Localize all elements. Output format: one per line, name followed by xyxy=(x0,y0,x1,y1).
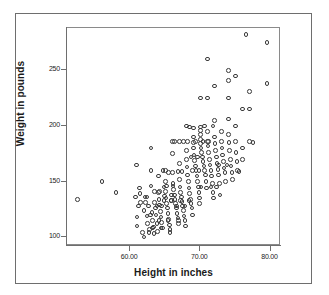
data-point xyxy=(195,174,200,179)
data-point xyxy=(205,129,210,134)
data-point xyxy=(209,185,214,190)
data-point xyxy=(190,213,195,218)
data-point xyxy=(203,173,208,178)
data-point xyxy=(148,213,153,218)
data-point xyxy=(149,146,154,151)
data-point xyxy=(223,179,228,184)
data-point xyxy=(149,168,154,173)
data-point xyxy=(208,163,213,168)
data-point xyxy=(212,135,217,140)
data-point xyxy=(135,224,140,229)
data-point xyxy=(178,198,183,203)
data-point xyxy=(152,189,157,194)
data-point xyxy=(204,179,209,184)
x-axis-tick-mark xyxy=(270,246,271,251)
data-point xyxy=(150,226,155,231)
y-axis-tick-mark xyxy=(61,181,66,182)
data-point xyxy=(163,189,168,194)
data-point xyxy=(209,174,214,179)
data-point xyxy=(155,204,160,209)
data-point xyxy=(247,107,252,112)
data-point xyxy=(211,190,216,195)
data-point xyxy=(244,32,249,37)
data-point xyxy=(197,201,202,206)
data-point xyxy=(227,140,232,145)
data-point xyxy=(216,167,221,172)
data-point xyxy=(147,230,152,235)
data-point xyxy=(100,179,105,184)
data-point xyxy=(157,197,162,202)
data-point xyxy=(212,118,217,123)
data-point xyxy=(158,209,163,214)
data-point xyxy=(178,185,183,190)
data-point xyxy=(170,151,175,156)
data-point xyxy=(216,173,221,178)
y-axis-tick-label: 200 xyxy=(34,121,60,129)
data-point xyxy=(177,161,182,166)
data-point xyxy=(183,224,188,229)
x-axis-line xyxy=(66,245,281,246)
data-point xyxy=(166,218,171,223)
data-point xyxy=(230,177,235,182)
data-point xyxy=(197,190,202,195)
data-point xyxy=(134,163,139,168)
data-point xyxy=(159,204,164,209)
data-point xyxy=(226,78,231,83)
y-axis-tick-label: 250 xyxy=(34,65,60,73)
data-point xyxy=(164,184,169,189)
x-axis-tick-label: 70.00 xyxy=(177,253,221,261)
data-point xyxy=(229,164,234,169)
data-point xyxy=(235,159,240,164)
data-point xyxy=(137,186,142,191)
data-point xyxy=(247,89,252,94)
data-point xyxy=(240,146,245,151)
data-point xyxy=(181,139,186,144)
data-point xyxy=(184,148,189,153)
data-point xyxy=(205,57,210,62)
data-point xyxy=(174,204,179,209)
plot-panel xyxy=(66,27,280,245)
data-point xyxy=(191,146,196,151)
data-point xyxy=(155,229,160,234)
data-point xyxy=(206,144,211,149)
data-point xyxy=(142,235,147,240)
data-point xyxy=(183,218,188,223)
data-point xyxy=(186,179,191,184)
data-point xyxy=(190,168,195,173)
data-point xyxy=(230,170,235,175)
data-point xyxy=(114,190,119,195)
data-point xyxy=(138,191,143,196)
x-axis-tick-label: 60.00 xyxy=(107,253,151,261)
data-point xyxy=(185,139,190,144)
y-axis-tick-mark xyxy=(61,69,66,70)
data-point xyxy=(157,218,162,223)
data-point xyxy=(162,198,167,203)
data-point xyxy=(205,96,210,101)
data-point xyxy=(220,153,225,158)
data-point xyxy=(168,230,173,235)
data-point xyxy=(233,139,238,144)
data-point xyxy=(212,84,217,89)
data-point xyxy=(226,132,231,137)
data-point xyxy=(187,191,192,196)
data-point xyxy=(218,193,223,198)
data-point xyxy=(220,146,225,151)
data-point xyxy=(145,221,150,226)
data-point xyxy=(207,157,212,162)
data-point xyxy=(145,195,150,200)
data-point xyxy=(185,173,190,178)
data-point xyxy=(187,198,192,203)
data-point xyxy=(228,157,233,162)
data-point xyxy=(184,157,189,162)
data-point xyxy=(157,189,162,194)
data-point xyxy=(219,139,224,144)
data-point xyxy=(75,197,80,202)
data-point xyxy=(181,208,186,213)
data-point xyxy=(197,168,202,173)
data-point xyxy=(183,204,188,209)
data-point xyxy=(213,148,218,153)
data-point xyxy=(195,179,200,184)
data-point xyxy=(202,124,207,129)
data-point xyxy=(240,157,245,162)
data-point xyxy=(201,139,206,144)
